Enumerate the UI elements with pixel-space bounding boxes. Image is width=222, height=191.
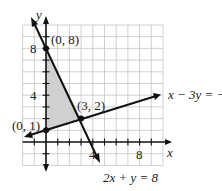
point-label-3-2: (3, 2): [77, 99, 105, 112]
x-tick-label-8: 8: [136, 148, 143, 161]
point-label-0-1: (0, 1): [12, 119, 40, 132]
y-axis-label: y: [36, 8, 42, 21]
y-tick-label-4: 4: [30, 89, 37, 102]
line2-arrow-right-icon: [153, 93, 161, 100]
y-tick-label-8: 8: [30, 42, 37, 55]
y-axis-arrow-up-icon: [43, 16, 49, 24]
equation-label-x-minus-3y: x − 3y = −3: [168, 88, 222, 101]
point-label-0-8: (0, 8): [51, 33, 79, 46]
point-3-2: [78, 116, 84, 122]
y-axis-arrow-down-icon: [43, 164, 49, 172]
x-axis-label: x: [167, 146, 173, 159]
x-tick-label-4: 4: [89, 148, 96, 161]
point-0-1: [43, 127, 49, 133]
equation-label-2x-plus-y: 2x + y = 8: [103, 171, 158, 184]
point-0-8: [43, 45, 49, 51]
